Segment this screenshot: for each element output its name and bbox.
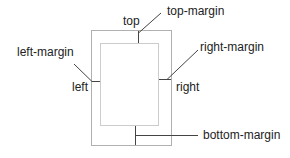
label-top: top xyxy=(123,14,140,28)
content-inner-rect xyxy=(101,44,159,126)
label-bottom-margin: bottom-margin xyxy=(203,128,280,142)
label-right-margin: right-margin xyxy=(200,40,264,54)
left-margin-leader xyxy=(74,64,92,82)
page-outer-rect xyxy=(92,31,172,146)
label-right: right xyxy=(176,80,199,94)
label-top-margin: top-margin xyxy=(167,4,224,18)
label-left: left xyxy=(72,80,88,94)
label-left-margin: left-margin xyxy=(17,45,74,59)
